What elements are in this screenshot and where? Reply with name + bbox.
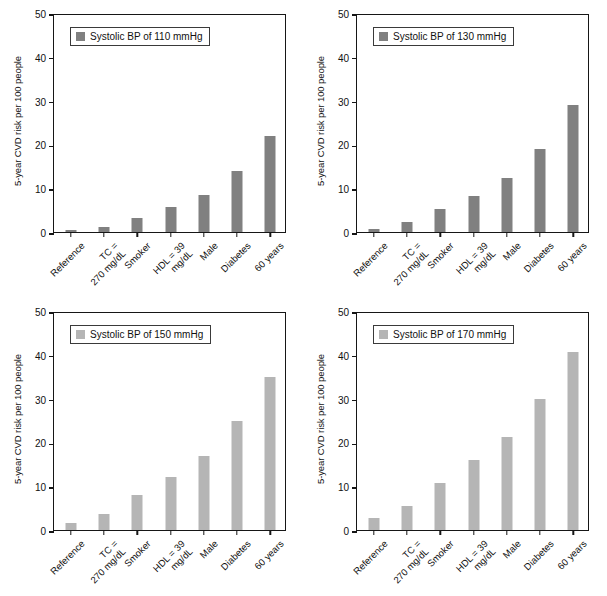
y-axis-tick-mark <box>352 487 357 488</box>
x-axis-tick-label: TC =270 mg/dL <box>80 240 127 287</box>
y-axis-tick-mark <box>49 531 54 532</box>
bar <box>265 136 276 232</box>
y-axis-tick-label: 40 <box>35 352 49 362</box>
bar <box>468 460 479 530</box>
y-axis-label: 5-year CVD risk per 100 people <box>12 10 28 232</box>
y-axis-tick-mark <box>49 356 54 357</box>
legend: Systolic BP of 150 mmHg <box>70 325 211 344</box>
y-axis-tick-label: 50 <box>35 10 49 20</box>
y-axis-tick-mark <box>49 400 54 401</box>
x-axis-tick-label-line: 60 years <box>253 240 287 274</box>
bar <box>65 523 76 530</box>
x-axis-tick-label-line: 60 years <box>253 538 287 572</box>
y-axis-tick-label: 10 <box>35 185 49 195</box>
y-axis-tick-mark <box>352 400 357 401</box>
legend-color-swatch <box>76 32 85 41</box>
y-axis-tick-mark <box>352 233 357 234</box>
y-axis-tick-mark <box>352 444 357 445</box>
x-axis-tick-label: HDL = 39mg/dL <box>150 240 194 284</box>
legend-label: Systolic BP of 170 mmHg <box>393 329 506 340</box>
cvd-risk-panel-figure: 5-year CVD risk per 100 people0102030405… <box>0 0 607 596</box>
y-axis-tick-mark <box>352 531 357 532</box>
bar <box>232 171 243 232</box>
y-axis-tick: 10 <box>35 184 54 196</box>
y-axis-label: 5-year CVD risk per 100 people <box>315 10 331 232</box>
x-axis-tick-mark <box>373 530 374 535</box>
y-axis-tick: 40 <box>35 351 54 363</box>
y-axis-tick-mark <box>352 356 357 357</box>
y-axis-tick: 0 <box>40 228 54 240</box>
x-axis-tick-mark <box>70 530 71 535</box>
y-axis-tick: 20 <box>35 140 54 152</box>
bar <box>535 399 546 530</box>
x-axis-tick-label: 60 years <box>253 240 287 274</box>
bar <box>198 456 209 530</box>
y-axis-tick: 50 <box>35 307 54 319</box>
bar <box>132 495 143 530</box>
x-axis-tick-mark <box>406 530 407 535</box>
x-axis-tick-mark <box>506 530 507 535</box>
x-axis-tick-mark <box>539 530 540 535</box>
x-axis-tick-mark <box>137 530 138 535</box>
y-axis-tick: 20 <box>338 140 357 152</box>
x-axis-tick-label-line: Male <box>197 240 219 262</box>
bar <box>535 149 546 232</box>
y-axis-tick: 50 <box>338 9 357 21</box>
x-axis-tick-mark <box>170 530 171 535</box>
x-axis-tick-label-line: Male <box>500 240 522 262</box>
x-axis-tick-mark <box>170 232 171 237</box>
plot-area: 01020304050Systolic BP of 110 mmHgRefere… <box>53 14 286 233</box>
bar <box>468 196 479 232</box>
y-axis-label: 5-year CVD risk per 100 people <box>315 308 331 530</box>
bar <box>401 506 412 530</box>
y-axis-tick-label: 50 <box>35 308 49 318</box>
bar <box>401 222 412 232</box>
bar <box>165 207 176 232</box>
x-axis-tick-label: Diabetes <box>522 538 556 572</box>
plot-area: 01020304050Systolic BP of 150 mmHgRefere… <box>53 312 286 531</box>
x-axis-tick-mark <box>103 232 104 237</box>
y-axis-tick-mark <box>352 312 357 313</box>
x-axis-tick-mark <box>203 232 204 237</box>
legend-color-swatch <box>379 330 388 339</box>
y-axis-tick-label: 20 <box>338 439 352 449</box>
bar <box>501 437 512 530</box>
y-axis-tick: 0 <box>343 526 357 538</box>
bar <box>198 195 209 232</box>
x-axis-tick-mark <box>440 530 441 535</box>
legend: Systolic BP of 170 mmHg <box>373 325 514 344</box>
y-axis-tick-label: 40 <box>338 352 352 362</box>
y-axis-tick-label: 40 <box>35 54 49 64</box>
x-axis-tick-label-line: Male <box>197 538 219 560</box>
y-axis-tick-label: 20 <box>338 141 352 151</box>
y-axis-tick-label: 10 <box>338 185 352 195</box>
bar <box>435 209 446 232</box>
chart-panel-panel-150: 5-year CVD risk per 100 people0102030405… <box>0 298 303 596</box>
bar <box>568 105 579 232</box>
x-axis-tick-mark <box>70 232 71 237</box>
x-axis-tick-mark <box>236 232 237 237</box>
x-axis-tick-mark <box>539 232 540 237</box>
y-axis-tick: 0 <box>343 228 357 240</box>
legend-label: Systolic BP of 110 mmHg <box>90 31 202 42</box>
y-axis-tick-label: 10 <box>35 483 49 493</box>
legend: Systolic BP of 130 mmHg <box>373 27 514 46</box>
legend: Systolic BP of 110 mmHg <box>70 27 210 46</box>
chart-panel-panel-110: 5-year CVD risk per 100 people0102030405… <box>0 0 303 298</box>
y-axis-label: 5-year CVD risk per 100 people <box>12 308 28 530</box>
y-axis-tick-label: 30 <box>338 98 352 108</box>
x-axis-tick-label: Male <box>500 538 522 560</box>
x-axis-tick-mark <box>373 232 374 237</box>
x-axis-tick-label: Male <box>197 538 219 560</box>
y-axis-tick: 30 <box>338 97 357 109</box>
y-axis-tick-mark <box>49 487 54 488</box>
x-axis-tick-mark <box>203 530 204 535</box>
y-axis-tick-label: 30 <box>338 396 352 406</box>
y-axis-tick: 20 <box>338 438 357 450</box>
bar <box>98 514 109 530</box>
y-axis-tick: 10 <box>338 482 357 494</box>
x-axis-tick-label: 60 years <box>556 538 590 572</box>
y-axis-tick: 40 <box>35 53 54 65</box>
y-axis-tick-mark <box>49 14 54 15</box>
x-axis-tick-label: Diabetes <box>219 538 253 572</box>
